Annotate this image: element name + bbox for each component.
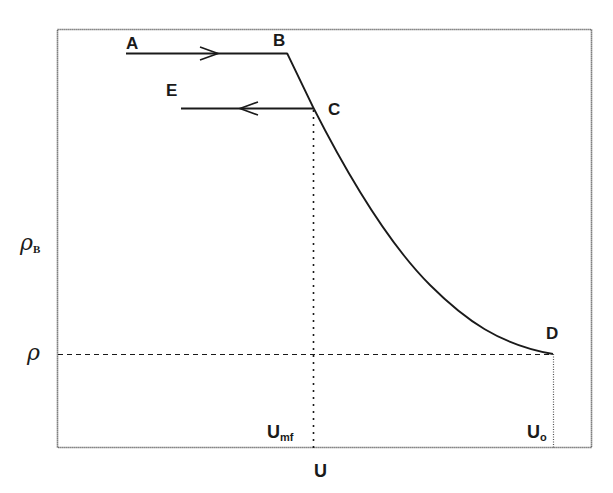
- plot-frame: [58, 30, 592, 448]
- label-e: E: [166, 81, 177, 100]
- label-d: D: [546, 324, 558, 343]
- bed-density-vs-velocity-diagram: A B C D E ρB ρ Umf Uo U: [0, 0, 613, 493]
- x-axis-title: U: [314, 461, 327, 481]
- y-label-rho-b: ρB: [19, 230, 41, 255]
- density-curve: [287, 53, 553, 354]
- label-b: B: [273, 31, 285, 50]
- y-label-rho: ρ: [26, 340, 40, 365]
- label-a: A: [126, 34, 138, 53]
- label-c: C: [328, 100, 340, 119]
- x-tick-umf: Umf: [267, 422, 294, 443]
- x-tick-uo: Uo: [527, 422, 547, 443]
